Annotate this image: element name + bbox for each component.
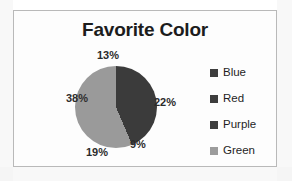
legend-swatch-icon [210,69,218,77]
legend-item-blue[interactable]: Blue [210,62,276,83]
pie-plot-area[interactable]: 13% 22% 9% 19% 38% [44,49,194,164]
slice-label-38: 38% [66,92,88,104]
slice-label-19: 19% [86,146,108,158]
legend-label-green: Green [223,145,255,157]
pie-graphic[interactable] [75,66,157,148]
legend-swatch-icon [210,147,218,155]
page-margin-right [277,0,292,181]
legend-item-red[interactable]: Red [210,88,276,109]
legend-label-blue: Blue [223,67,246,79]
legend-item-purple[interactable]: Purple [210,114,276,135]
chart-title: Favorite Color [14,19,276,41]
page-margin-left [0,0,13,181]
slice-label-9: 9% [130,138,146,150]
legend-swatch-icon [210,95,218,103]
legend-swatch-icon [210,121,218,129]
chart-frame[interactable]: Favorite Color 13% 22% 9% 19% 38% Blue R… [13,10,277,167]
pie-slices[interactable] [75,66,157,148]
slice-label-13: 13% [97,49,119,61]
legend-label-purple: Purple [223,119,256,131]
chart-legend[interactable]: Blue Red Purple Green [210,62,276,166]
slice-label-22: 22% [154,96,176,108]
page-margin-bottom [0,167,292,181]
legend-label-red: Red [223,93,244,105]
legend-item-green[interactable]: Green [210,140,276,161]
